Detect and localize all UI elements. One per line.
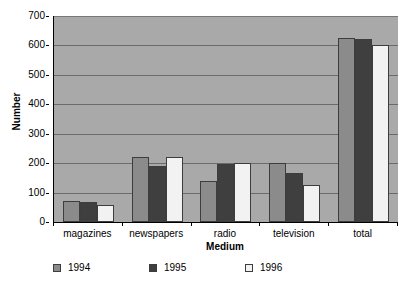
y-tick-mark [46,163,49,164]
bar-chart: Number 700 600 500 400 300 200 100 0 [0,0,415,284]
y-tick-label: 100 [28,188,45,198]
bar-group-television [260,16,329,222]
x-tick-mark [53,223,54,226]
bar-magazines-1996 [97,205,114,222]
legend-item-1994: 1994 [53,263,135,273]
bar-radio-1994 [200,181,217,222]
y-tick-mark [46,45,49,46]
y-tick-label: 700 [28,11,45,21]
bar-total-1995 [355,39,372,222]
y-tick-mark [46,193,49,194]
legend-swatch-icon [245,264,253,272]
y-tick-label: 500 [28,70,45,80]
bar-television-1996 [303,185,320,222]
legend-item-1996: 1996 [245,263,327,273]
y-tick-mark [46,134,49,135]
bar-radio-1996 [234,163,251,222]
legend-swatch-icon [53,264,61,272]
y-tick-label: 0 [39,217,45,227]
x-tick-mark [191,223,192,226]
bar-total-1994 [338,38,355,222]
y-axis-tick-labels: 700 600 500 400 300 200 100 0 [20,16,49,222]
bar-radio-1995 [217,164,234,222]
bar-television-1995 [286,173,303,222]
bar-television-1994 [269,163,286,222]
legend-label: 1995 [164,263,186,273]
x-label-radio: radio [191,227,260,241]
y-tick-mark [46,222,49,223]
x-axis-category-labels: magazines newspapers radio television to… [53,227,397,241]
y-tick-mark [46,75,49,76]
bar-group-radio [192,16,261,222]
x-tick-mark [397,223,398,226]
legend-swatch-icon [149,264,157,272]
bar-group-total [329,16,398,222]
x-tick-mark [328,223,329,226]
bar-magazines-1994 [63,201,80,222]
x-tick-mark [259,223,260,226]
x-label-newspapers: newspapers [122,227,191,241]
x-axis-title: Medium [53,241,397,252]
x-tick-mark [122,223,123,226]
bar-group-newspapers [123,16,192,222]
bar-group-magazines [54,16,123,222]
legend-label: 1994 [68,263,90,273]
chart-legend: 1994 1995 1996 [53,260,397,276]
x-label-magazines: magazines [53,227,122,241]
legend-item-1995: 1995 [149,263,231,273]
y-tick-mark [46,104,49,105]
plot-area [53,16,398,223]
bar-total-1996 [372,45,389,222]
x-label-total: total [328,227,397,241]
y-tick-label: 300 [28,129,45,139]
bar-magazines-1995 [80,202,97,222]
y-tick-label: 600 [28,40,45,50]
bar-newspapers-1995 [149,166,166,222]
bar-groups [54,16,398,222]
y-tick-label: 400 [28,99,45,109]
y-tick-label: 200 [28,158,45,168]
x-label-television: television [259,227,328,241]
bar-newspapers-1996 [166,157,183,222]
bar-newspapers-1994 [132,157,149,222]
legend-label: 1996 [260,263,282,273]
y-tick-mark [46,16,49,17]
